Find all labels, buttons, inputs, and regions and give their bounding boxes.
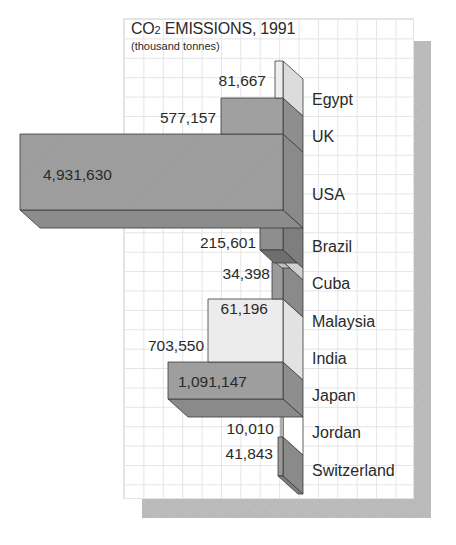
country-label-egypt: Egypt: [312, 91, 353, 108]
value-label-switzerland: 41,843: [226, 445, 273, 462]
value-label-brazil: 215,601: [200, 234, 256, 251]
bar-chart: 81,667 577,157 4,931,630 215,601 34,398 …: [0, 0, 456, 545]
country-label-brazil: Brazil: [312, 238, 352, 255]
value-label-egypt: 81,667: [219, 72, 266, 89]
country-label-malaysia: Malaysia: [312, 313, 375, 330]
country-label-cuba: Cuba: [312, 275, 350, 292]
value-label-uk: 577,157: [160, 109, 216, 126]
country-label-uk: UK: [312, 128, 335, 145]
value-label-usa: 4,931,630: [43, 166, 112, 183]
value-label-jordan: 10,010: [227, 420, 275, 437]
value-label-malaysia: 61,196: [221, 300, 268, 317]
country-label-japan: Japan: [312, 387, 356, 404]
country-label-jordan: Jordan: [312, 424, 361, 441]
value-label-india: 703,550: [148, 337, 204, 354]
value-label-japan: 1,091,147: [178, 373, 247, 390]
value-label-cuba: 34,398: [223, 265, 270, 282]
country-label-switzerland: Switzerland: [312, 462, 395, 479]
country-label-india: India: [312, 350, 347, 367]
country-label-usa: USA: [312, 186, 345, 203]
